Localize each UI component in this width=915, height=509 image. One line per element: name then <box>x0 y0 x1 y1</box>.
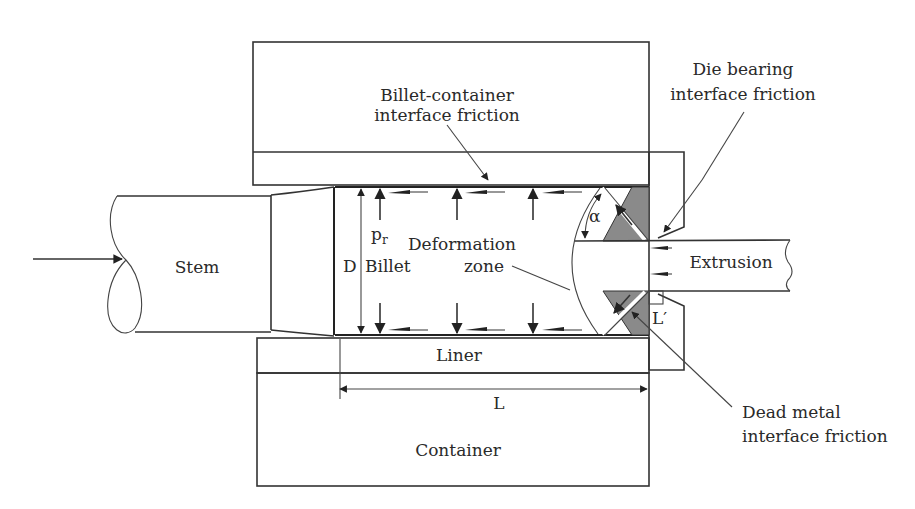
die-bearing-label-1: Die bearing <box>692 59 793 79</box>
dead-metal-label-1: Dead metal <box>742 402 841 422</box>
die-bottom <box>649 294 684 370</box>
dead-metal-leader <box>632 312 732 407</box>
billet-container-label-1: Billet-container <box>380 85 515 105</box>
bearing-length-label: L′ <box>652 308 667 328</box>
dummy-block <box>271 187 334 336</box>
deformation-zone-label-1: Deformation <box>408 234 516 254</box>
die-bearing-leader <box>664 180 702 232</box>
die-bearing-label-2: interface friction <box>670 84 816 104</box>
billet-container-label-2: interface friction <box>374 105 520 125</box>
friction-arrows-bottom <box>388 327 582 331</box>
diameter-label: D <box>343 256 357 276</box>
pressure-label: pr <box>371 224 388 247</box>
alpha-label: α <box>589 206 601 226</box>
bearing-friction-arrow-top <box>650 246 668 250</box>
bearing-length-box <box>649 291 663 304</box>
extrusion-label: Extrusion <box>689 252 772 272</box>
billet-label: Billet <box>365 256 411 276</box>
bearing-friction-arrow-bottom <box>650 272 668 276</box>
liner-label: Liner <box>436 345 483 365</box>
die-top <box>649 152 684 238</box>
deformation-zone-leader <box>512 266 570 290</box>
die-bearing-leader-a <box>702 112 744 180</box>
extrusion-diagram: Billet-container interface friction Die … <box>0 0 915 509</box>
container-label: Container <box>415 440 502 460</box>
stem-label: Stem <box>175 257 220 277</box>
friction-arrows-top <box>388 190 582 194</box>
length-label: L <box>493 393 504 413</box>
deformation-zone-label-2: zone <box>464 256 504 276</box>
dead-metal-label-2: interface friction <box>742 426 888 446</box>
